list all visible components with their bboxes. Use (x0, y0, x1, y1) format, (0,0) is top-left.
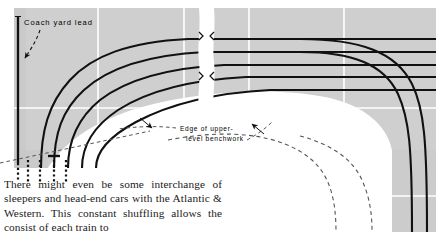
benchwork-shade-left (14, 8, 26, 168)
drawing-break-symbol (198, 8, 214, 112)
body-paragraph: There might even be some interchange of … (4, 177, 222, 232)
figure-panel: Coach yard lead Edge of upper- level ben… (0, 0, 436, 232)
edge-benchwork-label-line2: level benchwork (186, 135, 244, 142)
benchwork-shade-right (392, 150, 436, 232)
body-text-block: There might even be some interchange of … (4, 177, 222, 232)
break-band-fill (198, 8, 214, 112)
edge-benchwork-label-line1: Edge of upper- (180, 125, 233, 133)
coach-yard-lead-label: Coach yard lead (24, 18, 93, 27)
